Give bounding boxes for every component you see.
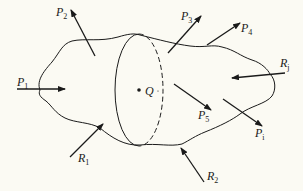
force-pi-label: Pi <box>255 127 265 142</box>
force-p2-arrow <box>71 10 95 56</box>
point-q-label: Q <box>145 85 154 97</box>
cut-plane-front <box>115 34 139 146</box>
force-rj-arrow <box>232 73 285 78</box>
force-p4-label: P4 <box>241 22 252 37</box>
force-p4-arrow <box>207 23 240 45</box>
force-pi-arrow <box>223 99 262 126</box>
force-r2-arrow <box>181 148 204 182</box>
force-p5-arrow <box>174 84 211 110</box>
free-body-diagram: Q P1 P2 P3 P4 P5 Pi Rj R1 R2 <box>0 0 303 191</box>
force-rj-label: Rj <box>280 57 290 72</box>
force-p5-label: P5 <box>198 109 209 124</box>
force-p1-label: P1 <box>17 76 28 91</box>
force-r1-label: R1 <box>78 152 89 167</box>
force-r2-label: R2 <box>207 170 218 185</box>
force-p2-label: P2 <box>56 6 67 21</box>
point-q-dot <box>137 88 141 92</box>
force-p3-label: P3 <box>181 10 192 25</box>
